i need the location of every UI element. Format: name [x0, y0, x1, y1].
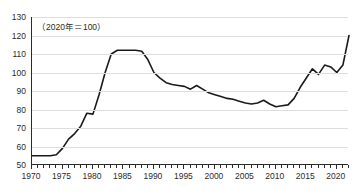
- x-axis-tick: [55, 165, 56, 168]
- x-axis-tick: [214, 165, 215, 169]
- x-axis-tick: [159, 165, 160, 168]
- x-axis-tick: [263, 165, 264, 168]
- x-axis-tick: [293, 165, 294, 168]
- gridline-y-100: [32, 73, 348, 74]
- x-axis-tick: [275, 165, 276, 169]
- x-axis-tick: [98, 165, 99, 168]
- y-axis-label: 60: [0, 143, 26, 152]
- y-axis-label: 100: [0, 69, 26, 78]
- x-axis-tick: [31, 165, 32, 169]
- x-axis-tick: [92, 165, 93, 169]
- x-axis-label: 1990: [138, 172, 168, 181]
- x-axis-tick: [287, 165, 288, 168]
- x-axis-label: 1975: [47, 172, 77, 181]
- x-axis-tick: [104, 165, 105, 168]
- x-axis-tick: [238, 165, 239, 168]
- x-axis-label: 2000: [199, 172, 229, 181]
- x-axis-tick: [153, 165, 154, 169]
- gridline-y-80: [32, 110, 348, 111]
- x-axis-tick: [251, 165, 252, 168]
- gridline-y-70: [32, 128, 348, 129]
- index-base-note: （2020年＝100）: [37, 20, 106, 32]
- y-axis-label: 120: [0, 32, 26, 41]
- gridline-y-60: [32, 147, 348, 148]
- x-axis-tick: [183, 165, 184, 169]
- x-axis-tick: [232, 165, 233, 168]
- x-axis-label: 2010: [260, 172, 290, 181]
- gridline-y-130: [32, 17, 348, 18]
- x-axis-tick: [244, 165, 245, 169]
- x-axis-tick: [129, 165, 130, 168]
- x-axis-tick: [348, 165, 349, 168]
- gridline-y-90: [32, 91, 348, 92]
- gridline-y-110: [32, 54, 348, 55]
- x-axis-tick: [62, 165, 63, 169]
- x-axis-tick: [74, 165, 75, 168]
- gridline-y-120: [32, 36, 348, 37]
- y-axis-label: 80: [0, 106, 26, 115]
- x-axis-tick: [49, 165, 50, 168]
- y-axis-label: 90: [0, 87, 26, 96]
- x-axis-tick: [226, 165, 227, 168]
- plot-area: [31, 17, 348, 165]
- x-axis-tick: [116, 165, 117, 168]
- x-axis-tick: [324, 165, 325, 168]
- chart-container: （2020年＝100） 5060708090100110120130197019…: [0, 0, 360, 195]
- x-axis-tick: [165, 165, 166, 168]
- x-axis-tick: [336, 165, 337, 169]
- x-axis-tick: [147, 165, 148, 168]
- x-axis-tick: [171, 165, 172, 168]
- x-axis-tick: [311, 165, 312, 168]
- chart-title-strip: [0, 0, 360, 7]
- x-axis-tick: [80, 165, 81, 168]
- x-axis-tick: [141, 165, 142, 168]
- x-axis-label: 1980: [77, 172, 107, 181]
- x-axis-tick: [318, 165, 319, 168]
- x-axis-tick: [110, 165, 111, 168]
- x-axis-tick: [135, 165, 136, 168]
- x-axis-tick: [196, 165, 197, 168]
- x-axis-tick: [305, 165, 306, 169]
- x-axis-tick: [281, 165, 282, 168]
- x-axis-tick: [122, 165, 123, 169]
- x-axis-tick: [220, 165, 221, 168]
- x-axis-label: 1985: [107, 172, 137, 181]
- x-axis-tick: [202, 165, 203, 168]
- x-axis-label: 1995: [168, 172, 198, 181]
- x-axis-label: 2020: [321, 172, 351, 181]
- y-axis-label: 110: [0, 50, 26, 59]
- x-axis-tick: [37, 165, 38, 168]
- y-axis-label: 130: [0, 13, 26, 22]
- x-axis-tick: [208, 165, 209, 168]
- x-axis-tick: [299, 165, 300, 168]
- x-axis-label: 1970: [16, 172, 46, 181]
- x-axis-tick: [86, 165, 87, 168]
- x-axis-tick: [269, 165, 270, 168]
- x-axis-label: 2015: [290, 172, 320, 181]
- x-axis-tick: [68, 165, 69, 168]
- x-axis-tick: [342, 165, 343, 168]
- x-axis-label: 2005: [229, 172, 259, 181]
- x-axis-tick: [257, 165, 258, 168]
- y-axis-label: 70: [0, 124, 26, 133]
- x-axis-tick: [177, 165, 178, 168]
- x-axis-tick: [43, 165, 44, 168]
- x-axis-tick: [190, 165, 191, 168]
- y-axis-label: 50: [0, 161, 26, 170]
- x-axis-tick: [330, 165, 331, 168]
